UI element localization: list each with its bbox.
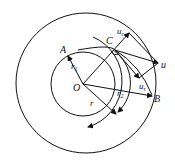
label-A: A bbox=[59, 44, 67, 55]
label-r: r bbox=[90, 98, 94, 108]
outer-circle bbox=[16, 13, 156, 153]
svg-text:r1: r1 bbox=[71, 61, 78, 72]
label-O: O bbox=[73, 82, 80, 93]
label-C: C bbox=[106, 35, 113, 46]
svg-text:uτ: uτ bbox=[139, 81, 147, 92]
svg-text:uc: uc bbox=[117, 26, 125, 37]
label-B: B bbox=[154, 93, 160, 104]
svg-text:r2: r2 bbox=[117, 88, 124, 99]
velocity-diagram: A C O B u uc uτ r1 r2 r bbox=[0, 0, 175, 164]
label-u: u bbox=[161, 59, 166, 70]
